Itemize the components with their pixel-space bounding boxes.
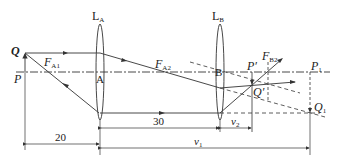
label-center-b: B (215, 67, 222, 78)
label-center-a: A (96, 74, 104, 85)
dim-label-v2: v2 (231, 116, 239, 129)
label-lens-b: LB (212, 10, 224, 24)
label-point-p-prime: P′ (247, 60, 257, 72)
label-lens-a: LA (92, 10, 104, 24)
label-point-q: Q (11, 45, 20, 57)
ray-diagram-canvas (0, 0, 337, 165)
label-point-q-prime: Q′ (253, 86, 264, 98)
label-focus-a1: FA1 (44, 56, 60, 70)
label-point-q1: Q1 (314, 101, 326, 115)
dim-label-v1: v1 (194, 136, 202, 149)
label-focus-b2: FB2 (262, 50, 278, 64)
dim-label-30: 30 (153, 116, 164, 127)
dim-label-20: 20 (55, 132, 66, 143)
label-focus-a2: FA2 (155, 58, 171, 72)
dashed-aux-line (190, 62, 300, 93)
label-point-p1: P1 (311, 60, 322, 74)
label-point-p: P (14, 73, 21, 85)
